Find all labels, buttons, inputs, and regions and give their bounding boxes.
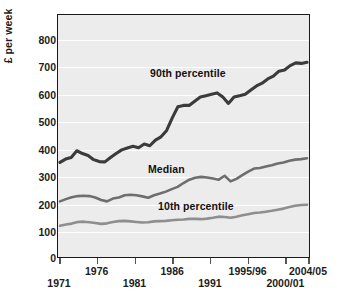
x-tick-label: 1976 bbox=[85, 265, 108, 277]
x-tick-label: 1991 bbox=[198, 277, 221, 289]
x-tick-label: 1971 bbox=[47, 277, 70, 289]
x-tick-label: 2004/05 bbox=[289, 265, 327, 277]
x-tick-label: 2000/01 bbox=[266, 277, 304, 289]
x-tick-label: 1981 bbox=[123, 277, 146, 289]
x-tick-label: 1986 bbox=[161, 265, 184, 277]
x-tick-label: 1995/96 bbox=[229, 265, 267, 277]
chart-container: £ per week 800 700 600 500 400 300 200 1… bbox=[0, 0, 337, 297]
x-axis-tick-labels: 197119761981198619911995/962000/012004/0… bbox=[0, 0, 337, 297]
